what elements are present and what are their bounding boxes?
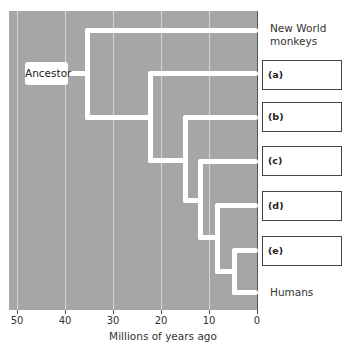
taxon-humans: Humans: [270, 286, 313, 299]
box-label-b: (b): [268, 111, 283, 122]
branch-node2-node3: [148, 158, 188, 163]
branch-d: [215, 203, 258, 208]
gridline-30: [113, 11, 114, 310]
tick-label-10: 10: [197, 315, 221, 326]
box-label-d: (d): [268, 200, 283, 211]
box-label-a: (a): [268, 69, 283, 80]
tick-10: [209, 310, 210, 314]
answer-box-b[interactable]: (b): [262, 102, 342, 132]
answer-box-a[interactable]: (a): [262, 60, 342, 90]
gridline-50: [17, 11, 18, 310]
node-1-vertical: [85, 28, 90, 120]
tick-label-0: 0: [245, 315, 269, 326]
branch-humans: [232, 290, 258, 295]
tick-label-30: 30: [101, 315, 125, 326]
tick-40: [65, 310, 66, 314]
node-4-vertical: [198, 159, 203, 240]
answer-box-c[interactable]: (c): [262, 146, 342, 176]
branch-new-world-monkeys: [85, 28, 258, 33]
box-label-c: (c): [268, 155, 282, 166]
tick-20: [161, 310, 162, 314]
node-2-vertical: [148, 71, 153, 163]
tick-label-20: 20: [149, 315, 173, 326]
tick-0: [257, 310, 258, 314]
tick-30: [113, 310, 114, 314]
node-3-vertical: [183, 115, 188, 203]
box-label-e: (e): [268, 245, 283, 256]
answer-box-d[interactable]: (d): [262, 191, 342, 221]
answer-box-e[interactable]: (e): [262, 236, 342, 266]
branch-node1-node2: [85, 115, 153, 120]
x-axis-label: Millions of years ago: [88, 330, 238, 342]
branch-c: [198, 159, 258, 164]
taxon-line-2: monkeys: [270, 35, 326, 48]
node-6-vertical: [232, 248, 237, 295]
taxon-new-world-monkeys: New World monkeys: [270, 22, 326, 48]
branch-e: [232, 248, 258, 253]
ancestor-label: Ancestor: [25, 62, 68, 85]
tick-label-50: 50: [5, 315, 29, 326]
node-5-vertical: [215, 203, 220, 274]
gridline-40: [65, 11, 66, 310]
branch-b: [183, 115, 258, 120]
branch-a: [148, 71, 258, 76]
taxon-line-1: New World: [270, 22, 326, 35]
tick-label-40: 40: [53, 315, 77, 326]
tick-50: [17, 310, 18, 314]
